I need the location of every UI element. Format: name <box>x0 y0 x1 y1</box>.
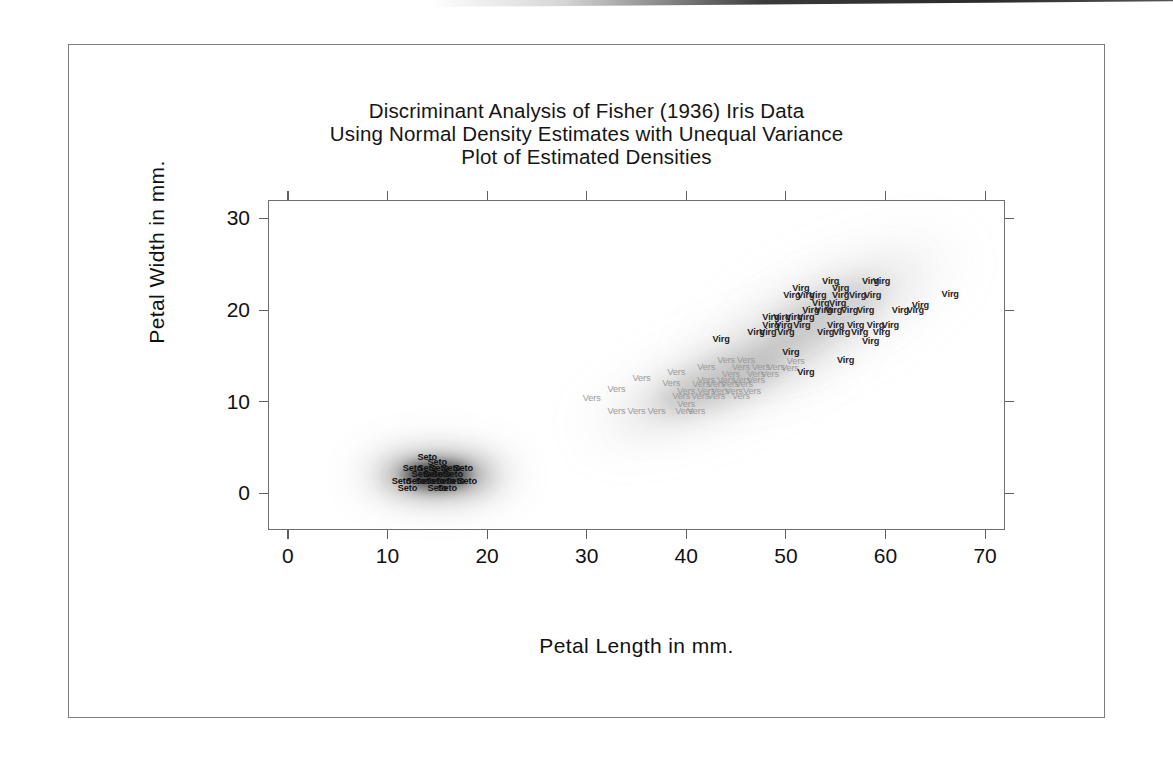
x-tick-mark <box>885 530 886 539</box>
data-point-label-vers: Vers <box>608 406 626 416</box>
x-tick-mark-top <box>586 191 587 200</box>
x-tick-mark <box>686 530 687 539</box>
data-point-label-virg: Virg <box>793 320 810 330</box>
x-tick-mark-top <box>487 191 488 200</box>
y-tick-label: 10 <box>200 390 250 414</box>
chart-title: Discriminant Analysis of Fisher (1936) I… <box>68 100 1105 169</box>
data-point-label-vers: Vers <box>647 406 665 416</box>
y-tick-mark <box>259 401 268 402</box>
data-point-label-vers: Vers <box>608 384 626 394</box>
x-tick-label: 0 <box>282 544 294 568</box>
x-tick-mark <box>785 530 786 539</box>
x-tick-label: 30 <box>575 544 598 568</box>
x-tick-mark <box>586 530 587 539</box>
x-tick-mark-top <box>985 191 986 200</box>
plot-data-layer: SetoSetoSetoSetoSetoSetoSetoSetoSetoSeto… <box>268 200 1005 530</box>
y-tick-mark <box>259 218 268 219</box>
data-point-label-seto: Seto <box>457 476 477 486</box>
data-point-label-virg: Virg <box>862 336 879 346</box>
scan-artifact-band <box>430 0 1173 7</box>
data-point-label-virg: Virg <box>825 305 842 315</box>
data-point-label-vers: Vers <box>732 391 750 401</box>
data-point-label-virg: Virg <box>797 367 814 377</box>
y-tick-mark-right <box>1005 493 1014 494</box>
x-tick-mark <box>387 530 388 539</box>
data-point-label-seto: Seto <box>438 483 458 493</box>
title-line-3: Plot of Estimated Densities <box>68 146 1105 169</box>
y-tick-mark-right <box>1005 218 1014 219</box>
x-axis-title: Petal Length in mm. <box>268 634 1005 658</box>
y-tick-mark-right <box>1005 401 1014 402</box>
x-tick-mark-top <box>885 191 886 200</box>
data-point-label-virg: Virg <box>942 289 959 299</box>
x-tick-label: 60 <box>874 544 897 568</box>
data-point-label-seto: Seto <box>398 483 418 493</box>
data-point-label-virg: Virg <box>817 327 834 337</box>
x-tick-mark-top <box>387 191 388 200</box>
data-point-label-vers: Vers <box>707 391 725 401</box>
x-tick-label: 50 <box>774 544 797 568</box>
data-point-label-virg: Virg <box>712 334 729 344</box>
data-point-label-vers: Vers <box>687 406 705 416</box>
data-point-label-virg: Virg <box>873 276 890 286</box>
data-point-label-virg: Virg <box>857 305 874 315</box>
x-tick-mark <box>487 530 488 539</box>
title-line-1: Discriminant Analysis of Fisher (1936) I… <box>68 100 1105 123</box>
data-point-label-vers: Vers <box>628 406 646 416</box>
y-tick-label: 30 <box>200 206 250 230</box>
x-tick-mark-top <box>686 191 687 200</box>
data-point-label-virg: Virg <box>864 290 881 300</box>
x-tick-mark <box>287 530 288 539</box>
data-point-label-virg: Virg <box>782 347 799 357</box>
y-tick-label: 20 <box>200 298 250 322</box>
x-tick-mark-top <box>785 191 786 200</box>
data-point-label-vers: Vers <box>697 362 715 372</box>
data-point-label-virg: Virg <box>841 305 858 315</box>
x-tick-mark-top <box>287 191 288 200</box>
data-point-label-vers: Vers <box>667 367 685 377</box>
x-tick-label: 20 <box>475 544 498 568</box>
data-point-label-virg: Virg <box>833 327 850 337</box>
data-point-label-virg: Virg <box>759 327 776 337</box>
x-tick-mark <box>985 530 986 539</box>
title-line-2: Using Normal Density Estimates with Uneq… <box>68 123 1105 146</box>
data-point-label-vers: Vers <box>632 373 650 383</box>
x-tick-label: 10 <box>376 544 399 568</box>
y-tick-mark <box>259 310 268 311</box>
data-point-label-virg: Virg <box>907 305 924 315</box>
data-point-label-vers: Vers <box>583 393 601 403</box>
y-axis-title: Petal Width in mm. <box>145 87 169 417</box>
y-tick-mark <box>259 493 268 494</box>
data-point-label-virg: Virg <box>837 355 854 365</box>
data-point-label-virg: Virg <box>777 327 794 337</box>
x-tick-label: 70 <box>973 544 996 568</box>
y-tick-label: 0 <box>200 481 250 505</box>
y-tick-mark-right <box>1005 310 1014 311</box>
x-tick-label: 40 <box>675 544 698 568</box>
